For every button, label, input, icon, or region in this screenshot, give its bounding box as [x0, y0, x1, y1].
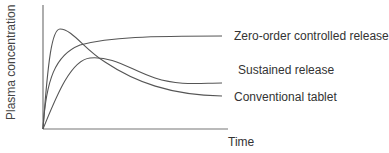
curve-zero-order [43, 36, 222, 129]
legend-conventional: Conventional tablet [234, 90, 337, 104]
curve-conventional [43, 29, 222, 129]
y-axis-label: Plasma concentration [4, 5, 18, 120]
legend-zero-order: Zero-order controlled release [234, 29, 389, 43]
x-axis-label: Time [228, 135, 254, 149]
curve-sustained [43, 58, 222, 129]
legend-sustained: Sustained release [238, 63, 334, 77]
